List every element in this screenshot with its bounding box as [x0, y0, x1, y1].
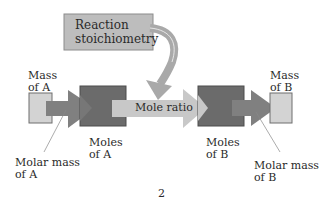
molar-mass-b-arrow-shaft — [232, 100, 252, 116]
reaction-label-line2: stoichiometry — [75, 32, 158, 46]
moles-a-label: Moles of A — [89, 137, 123, 161]
moles-b-label: Moles of B — [206, 137, 240, 161]
molar-mass-a-label: Molar mass of A — [15, 157, 80, 181]
moles-a-line2: of A — [89, 149, 123, 161]
mass-a-line2: of A — [28, 82, 57, 94]
page-number: 2 — [158, 188, 165, 199]
reaction-stoichiometry-label: Reaction stoichiometry — [75, 18, 158, 46]
reaction-label-line1: Reaction — [75, 18, 158, 32]
molar-mass-b-line2: of B — [254, 172, 319, 184]
mass-b-line2: of B — [270, 82, 299, 94]
mass-b-label: Mass of B — [270, 70, 299, 94]
mass-a-label: Mass of A — [28, 70, 57, 94]
mass-b-box — [270, 93, 292, 123]
mole-ratio-label: Mole ratio — [135, 102, 193, 114]
moles-b-line2: of B — [206, 149, 240, 161]
molar-mass-b-label: Molar mass of B — [254, 160, 319, 184]
curved-arrow-head-icon — [146, 80, 172, 100]
molar-mass-a-line2: of A — [15, 169, 80, 181]
